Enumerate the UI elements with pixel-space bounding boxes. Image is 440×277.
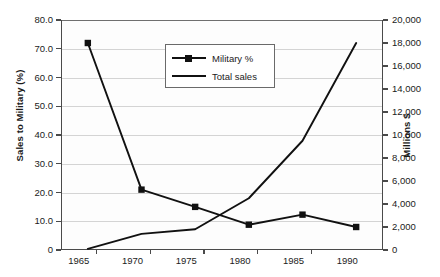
data-point-marker (138, 186, 144, 192)
tick-mark-right-18000 (383, 42, 388, 43)
legend-item-total-sales: Total sales (172, 67, 268, 85)
y2-tick-label-20000: 20,000 (392, 15, 421, 25)
x-tick-label-1980: 1980 (212, 256, 268, 266)
legend-label-military: Military % (212, 53, 253, 64)
legend-label-total-sales: Total sales (212, 71, 257, 82)
data-point-marker (353, 224, 359, 230)
x-tick-label-1970: 1970 (105, 256, 161, 266)
y2-tick-label-16000: 16,000 (392, 61, 421, 71)
tick-mark-right-20000 (383, 19, 388, 20)
y2-tick-label-18000: 18,000 (392, 38, 421, 48)
legend-item-military: Military % (172, 49, 268, 67)
y2-tick-label-4000: 4,000 (392, 199, 416, 209)
tick-mark-right-10000 (383, 134, 388, 135)
tick-mark-right-12000 (383, 111, 388, 112)
tick-mark-x-5 (311, 250, 312, 254)
y-tick-label-20: 20.0 (7, 188, 53, 198)
y-axis-title: Sales to Military (%) (14, 46, 25, 186)
y-tick-label-80: 80.0 (7, 15, 53, 25)
legend-key-line-icon (172, 70, 206, 82)
legend: Military % Total sales (165, 44, 275, 88)
tick-mark-x-3 (203, 250, 204, 254)
data-point-marker (299, 211, 305, 217)
x-tick-label-1965: 1965 (51, 256, 107, 266)
x-tick-label-1990: 1990 (319, 256, 375, 266)
tick-mark-right-16000 (383, 65, 388, 66)
tick-mark-x-4 (257, 250, 258, 254)
x-tick-label-1985: 1985 (266, 256, 322, 266)
y2-tick-label-0: 0 (392, 245, 397, 255)
data-point-marker (192, 204, 198, 210)
x-tick-label-1975: 1975 (158, 256, 214, 266)
data-point-marker (85, 40, 91, 46)
tick-mark-right-8000 (383, 157, 388, 158)
legend-key-square-line-icon (172, 52, 206, 64)
tick-mark-right-4000 (383, 203, 388, 204)
tick-mark-right-2000 (383, 226, 388, 227)
tick-mark-right-0 (383, 249, 388, 250)
tick-mark-right-6000 (383, 180, 388, 181)
y2-axis-title: Millions $ (401, 91, 412, 181)
chart-container: 80.0 70.0 60.0 50.0 40.0 30.0 20.0 10.0 … (0, 0, 440, 277)
tick-mark-x-1 (96, 250, 97, 254)
tick-mark-right-14000 (383, 88, 388, 89)
y-tick-label-10: 10.0 (7, 216, 53, 226)
y-tick-label-0: 0 (7, 245, 53, 255)
tick-mark-x-2 (150, 250, 151, 254)
data-point-marker (246, 222, 252, 228)
y2-tick-label-2000: 2,000 (392, 222, 416, 232)
